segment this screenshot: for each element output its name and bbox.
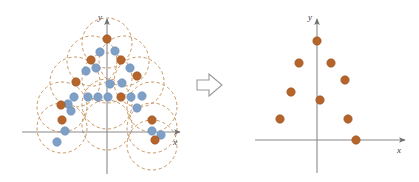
data-point-orange [287,88,295,96]
data-point-blue [106,80,114,88]
data-point-blue [104,93,112,101]
data-point-blue [53,138,61,146]
data-point-orange [295,59,303,67]
data-point-orange [57,101,65,109]
data-point-blue [61,127,69,135]
data-point-orange [103,35,111,43]
data-point-blue [96,48,104,56]
figure-container: x y x y [0,0,419,182]
data-point-blue [67,107,75,115]
data-point-orange [148,116,156,124]
data-point-blue [126,64,134,72]
data-point-blue [82,67,90,75]
data-point-orange [344,115,352,123]
data-point-orange [87,56,95,64]
data-point-blue [148,127,156,135]
data-point-orange [117,93,125,101]
data-point-blue [111,47,119,55]
left-y-axis-label: y [97,12,102,22]
data-point-blue [92,64,100,72]
data-point-blue [70,93,78,101]
data-point-blue [118,79,126,87]
data-point-orange [72,78,80,86]
data-point-orange [133,72,141,80]
left-x-axis-label: x [172,137,177,147]
data-point-orange [58,116,66,124]
data-point-orange [313,37,321,45]
data-point-orange [316,96,324,104]
data-point-blue [94,93,102,101]
data-point-orange [117,56,125,64]
data-point-orange [352,136,360,144]
data-point-blue [127,93,135,101]
data-point-blue [138,92,146,100]
right-x-axis-label: x [396,145,401,155]
right-y-axis-label: y [307,12,312,22]
data-point-orange [341,76,349,84]
data-point-blue [84,93,92,101]
scatter-figure: x y x y [0,0,419,182]
data-point-orange [151,136,159,144]
data-point-blue [133,104,141,112]
data-point-orange [276,115,284,123]
data-point-orange [327,59,335,67]
